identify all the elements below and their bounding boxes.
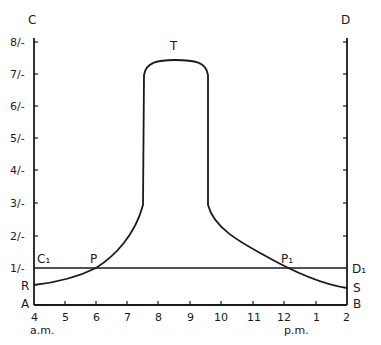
label-d1: D₁: [352, 262, 366, 276]
label-d: D: [341, 13, 350, 27]
x-tick-12: 12: [277, 311, 291, 324]
y-tick-2: 2/-: [10, 230, 25, 243]
x-tick-7: 7: [124, 311, 131, 324]
x-tick-8: 8: [155, 311, 162, 324]
x-tick-11: 11: [247, 311, 261, 324]
y-tick-8: 8/-: [10, 36, 25, 49]
label-c1: C₁: [37, 252, 50, 266]
label-a: A: [21, 297, 30, 311]
x-tick-5: 5: [62, 311, 69, 324]
x-axis-labels: 4 5 6 7 8 9 10 11 12 1 2 a.m. p.m.: [30, 311, 350, 337]
x-tick-9: 9: [187, 311, 194, 324]
y-tick-6: 6/-: [10, 100, 25, 113]
x-tick-10: 10: [214, 311, 228, 324]
y-tick-3: 3/-: [10, 197, 25, 210]
price-time-diagram: C D T C₁ D₁ P P₁ R S A B 8/- 7/- 6/- 5/-…: [0, 0, 381, 345]
label-p: P: [90, 252, 97, 266]
x-tick-6: 6: [93, 311, 100, 324]
price-curve: [34, 60, 347, 288]
label-p1: P₁: [281, 252, 293, 266]
label-b: B: [353, 297, 361, 311]
label-s: S: [353, 281, 361, 295]
x-tick-4: 4: [31, 311, 38, 324]
label-r: R: [21, 279, 29, 293]
y-axis-labels: 8/- 7/- 6/- 5/- 4/- 3/- 2/- 1/-: [10, 36, 25, 275]
y-tick-1: 1/-: [10, 262, 25, 275]
y-tick-7: 7/-: [10, 68, 25, 81]
x-tick-2: 2: [343, 311, 350, 324]
x-tick-1: 1: [313, 311, 320, 324]
label-t: T: [169, 39, 178, 53]
am-label: a.m.: [30, 324, 54, 337]
pm-label: p.m.: [284, 324, 309, 337]
label-c: C: [28, 13, 36, 27]
y-tick-4: 4/-: [10, 164, 25, 177]
y-tick-5: 5/-: [10, 132, 25, 145]
